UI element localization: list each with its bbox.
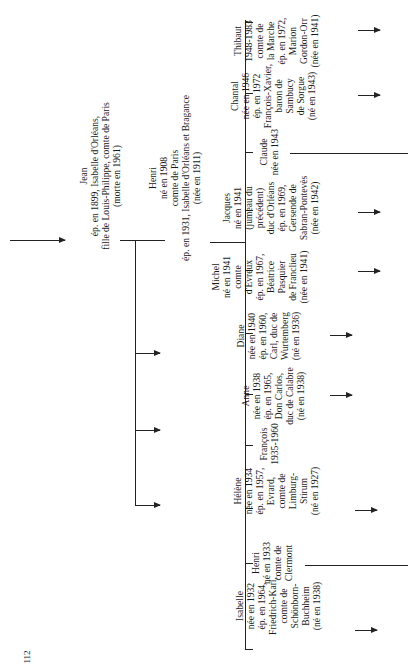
node-line: Sabran-Pontevès <box>298 158 309 258</box>
node-line: (née en 1942) <box>309 158 320 258</box>
spine-line <box>135 240 136 506</box>
node-line: comte de <box>272 528 283 598</box>
descendant-arrow-icon <box>355 630 377 631</box>
node-thibaut: Thibaut 1948-1983 comte de la Marche ép.… <box>232 3 324 79</box>
descendant-arrow-icon <box>358 271 380 272</box>
node-line: Henri <box>147 83 158 273</box>
node-line: Thibaut <box>232 3 243 79</box>
node-line: Clermont <box>283 528 294 598</box>
node-line: (né en 1927) <box>309 444 320 539</box>
node-jean: Jean ép. en 1899, Isabelle d'Orléans, fi… <box>78 96 122 256</box>
descendant-arrow-icon <box>330 335 352 336</box>
descendant-arrow-icon <box>330 395 352 396</box>
descendant-arrow-icon <box>358 30 380 31</box>
incoming-arrow-icon <box>10 240 65 241</box>
branch-arrow-icon <box>135 353 160 354</box>
node-line: né en 1908 <box>158 83 169 273</box>
node-line: Jean <box>78 96 89 256</box>
node-line: Limburg- <box>287 444 298 539</box>
node-line: Stirum <box>298 444 309 539</box>
page-number: 112 <box>22 650 32 663</box>
continuation-line <box>305 565 408 566</box>
node-line: Gordon-Orr <box>298 3 309 79</box>
node-line: comte de <box>254 3 265 79</box>
node-line: ép. en 1931, Isabelle d'Orléans et Braga… <box>180 83 191 273</box>
node-line: 1948-1983 <box>243 3 254 79</box>
genealogy-page: Jean ép. en 1899, Isabelle d'Orléans, fi… <box>0 0 408 666</box>
continuation-line <box>290 153 408 154</box>
node-line: ép. en 1899, Isabelle d'Orléans, <box>89 96 100 256</box>
node-henri-parent: Henri né en 1908 comte de Paris ép. en 1… <box>147 83 203 273</box>
descendant-arrow-icon <box>358 95 380 96</box>
node-line: né en 1941 <box>232 158 243 258</box>
node-line: Henri <box>250 528 261 598</box>
node-line: Michel <box>210 232 221 322</box>
node-line: Isabelle <box>234 556 245 656</box>
node-line: (jumeau du <box>243 158 254 258</box>
node-line: la Marche <box>265 3 276 79</box>
node-line: (morte en 1961) <box>111 96 122 256</box>
node-line: (née en 1941) <box>309 3 320 79</box>
branch-arrow-icon <box>135 430 160 431</box>
tick-line <box>245 152 253 153</box>
node-line: née en 1934 <box>243 444 254 539</box>
node-line: Gersende de <box>287 158 298 258</box>
node-line: Buchheim <box>300 556 311 656</box>
node-line: Hélène <box>232 444 243 539</box>
node-line: (née en 1911) <box>191 83 202 273</box>
node-line: ép. en 1972, <box>276 3 287 79</box>
descendant-arrow-icon <box>355 510 377 511</box>
node-line: comte de Paris <box>169 83 180 273</box>
node-line: né en 1933 <box>261 528 272 598</box>
node-henri-clermont: Henri né en 1933 comte de Clermont <box>250 528 296 598</box>
node-line: fille de Louis-Philippe, comte de Paris <box>100 96 111 256</box>
node-line: (né en 1938) <box>311 556 322 656</box>
branch-arrow-icon <box>135 505 160 506</box>
node-line: Jacques <box>221 158 232 258</box>
descendant-arrow-icon <box>358 212 380 213</box>
node-line: Marion <box>287 3 298 79</box>
